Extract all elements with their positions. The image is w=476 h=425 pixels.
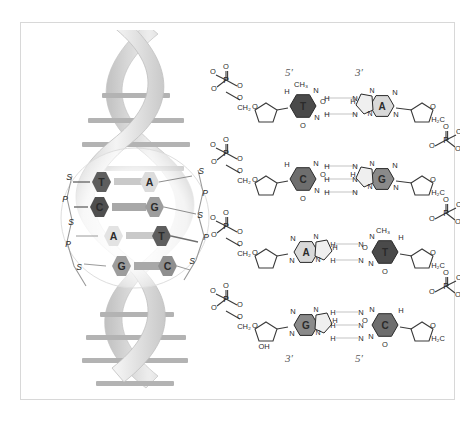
atom-label: H (330, 334, 335, 343)
atom-label: P (443, 281, 449, 291)
atom-label: O (429, 141, 435, 150)
atom-label: O (456, 273, 460, 282)
atom-label: O (210, 140, 216, 149)
atom-label: G (378, 174, 386, 185)
atom-label: N (315, 256, 320, 263)
atom-label: N (313, 159, 318, 168)
atom-label: O (252, 102, 258, 111)
atom-label: O (210, 213, 216, 222)
atom-label: O (455, 217, 460, 226)
atom-label: H (284, 87, 289, 96)
atom-label: N (314, 113, 319, 122)
atom-label: CH₃ (294, 80, 308, 89)
bond (277, 254, 288, 256)
structure-row-2: POOOOOCH₂OCNNHOOHNHNHNGNNNNHOH₂CPOOOO (210, 135, 460, 226)
atom-label: O (430, 175, 436, 184)
dna-double-helix: SP SP S SP SP S T A C G (40, 30, 230, 395)
atom-label: OH (258, 342, 269, 351)
atom-label: P (223, 148, 229, 158)
atom-label: N (358, 334, 363, 343)
svg-text:T: T (98, 176, 105, 188)
atom-label: H (398, 233, 403, 242)
bond (277, 108, 288, 110)
structure-row-3: POOOOOCH₂OANNNNHHNHNTNNHOOCH₃OH₂CPOOOO (210, 208, 460, 299)
atom-label: O (211, 84, 217, 93)
atom-label: O (223, 281, 229, 290)
atom-label: N (369, 87, 374, 94)
atom-label: O (211, 230, 217, 239)
svg-text:C: C (164, 260, 172, 272)
bond (277, 327, 288, 329)
sugar-ring (255, 249, 277, 268)
atom-label: N (290, 234, 295, 243)
atom-label: O (429, 214, 435, 223)
atom-label: H (330, 256, 335, 265)
bond (400, 327, 412, 329)
atom-label: P (223, 75, 229, 85)
atom-label: O (223, 135, 229, 144)
atom-label: O (443, 195, 449, 204)
atom-label: N (352, 110, 357, 119)
atom-label: O (362, 243, 368, 252)
atom-label: O (430, 102, 436, 111)
atom-label: O (443, 268, 449, 277)
atom-label: O (210, 286, 216, 295)
svg-text:S: S (197, 210, 203, 220)
atom-label: C (381, 320, 388, 331)
atom-label: O (252, 175, 258, 184)
atom-label: O (362, 316, 368, 325)
atom-label: P (223, 221, 229, 231)
atom-label: O (211, 157, 217, 166)
atom-label: H (398, 306, 403, 315)
atom-label: H (330, 308, 335, 317)
sugar-ring (255, 103, 277, 122)
atom-label: CH₃ (376, 226, 390, 235)
atom-label: H (324, 110, 329, 119)
atom-label: H (284, 160, 289, 169)
atom-label: N (289, 256, 294, 265)
svg-text:S: S (189, 256, 195, 266)
atom-label: N (368, 332, 373, 341)
label-top-left-5prime: 5′ (285, 66, 293, 78)
atom-label: O (455, 290, 460, 299)
atom-label: N (289, 329, 294, 338)
atom-label: O (456, 127, 460, 136)
atom-label: T (300, 101, 306, 112)
atom-label: O (455, 144, 460, 153)
atom-label: CH₂ (237, 249, 251, 258)
atom-label: T (382, 247, 388, 258)
atom-label: H (350, 170, 355, 179)
atom-label: P (223, 294, 229, 304)
atom-label: O (300, 194, 306, 203)
svg-text:P: P (202, 188, 208, 198)
atom-label: N (368, 259, 373, 268)
atom-label: O (443, 122, 449, 131)
atom-label: O (237, 300, 243, 309)
atom-label: P (443, 208, 449, 218)
atom-label: CH₂ (237, 322, 251, 331)
atom-label: N (369, 160, 374, 167)
label-bottom-left-3prime: 3′ (285, 352, 293, 364)
atom-label: N (392, 88, 397, 97)
atom-label: H₂C (431, 334, 445, 343)
atom-label: O (237, 312, 243, 321)
atom-label: O (237, 154, 243, 163)
figure-canvas: SP SP S SP SP S T A C G (0, 0, 476, 425)
svg-text:P: P (65, 239, 71, 249)
svg-text:S: S (76, 262, 82, 272)
atom-label: O (429, 287, 435, 296)
atom-label: A (302, 247, 309, 258)
atom-label: G (302, 320, 310, 331)
atom-label: O (430, 248, 436, 257)
structure-row-1: POOOOOCH₂OTNNHOOCH₃HNHNANNNNHOH₂CPOOOO (210, 62, 460, 153)
atom-label: H (324, 188, 329, 197)
atom-label: N (358, 256, 363, 265)
svg-text:G: G (117, 260, 125, 272)
atom-label: O (237, 93, 243, 102)
atom-label: N (315, 329, 320, 336)
atom-label: O (382, 340, 388, 349)
sugar-ring (255, 176, 277, 195)
atom-label: N (290, 307, 295, 316)
atom-label: H (324, 162, 329, 171)
atom-label: N (314, 186, 319, 195)
